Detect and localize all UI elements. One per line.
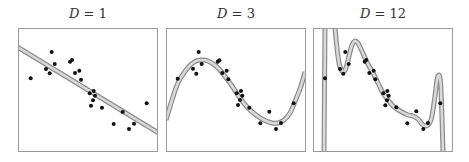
- data-point: [292, 101, 296, 105]
- plot-area: [313, 28, 454, 153]
- title-variable: D: [217, 6, 227, 21]
- fit-curve: [18, 47, 158, 132]
- data-point: [279, 121, 283, 125]
- panel-title: D = 3: [161, 6, 311, 21]
- data-point: [73, 71, 77, 75]
- data-point: [112, 122, 116, 126]
- data-point: [176, 77, 180, 81]
- data-point: [77, 69, 81, 73]
- data-point: [197, 50, 201, 54]
- data-point: [88, 91, 92, 95]
- data-point: [235, 91, 239, 95]
- data-point: [347, 62, 351, 66]
- title-variable: D: [69, 6, 79, 21]
- data-point: [191, 67, 195, 71]
- data-point: [383, 103, 387, 107]
- title-value: 1: [99, 6, 107, 21]
- panel-title: D = 12: [308, 6, 458, 21]
- data-point: [44, 67, 48, 71]
- data-point: [93, 94, 97, 98]
- data-point: [385, 89, 389, 93]
- data-point: [217, 58, 221, 62]
- fit-curve: [324, 28, 443, 152]
- data-point: [48, 71, 52, 75]
- data-point: [225, 69, 229, 73]
- data-point: [373, 77, 377, 81]
- data-point: [372, 69, 376, 73]
- data-point: [387, 94, 391, 98]
- title-equals: =: [370, 6, 389, 21]
- data-point: [258, 121, 262, 125]
- data-point: [29, 76, 33, 80]
- data-point: [323, 76, 327, 80]
- data-point: [100, 106, 104, 110]
- data-point: [274, 127, 278, 131]
- data-point: [438, 101, 442, 105]
- data-point: [341, 72, 345, 76]
- panel-d1: D = 1: [13, 0, 163, 162]
- data-point: [405, 121, 409, 125]
- title-value: 12: [390, 6, 407, 21]
- data-point: [338, 67, 342, 71]
- data-point: [381, 91, 385, 95]
- data-point: [50, 50, 54, 54]
- data-point: [240, 94, 244, 98]
- data-point: [92, 89, 96, 93]
- data-point: [394, 105, 398, 109]
- data-point: [70, 58, 74, 62]
- title-value: 3: [247, 6, 255, 21]
- data-point: [426, 121, 430, 125]
- data-point: [239, 89, 243, 93]
- data-point: [53, 62, 57, 66]
- data-point: [367, 71, 371, 75]
- title-variable: D: [360, 6, 370, 21]
- data-point: [414, 109, 418, 113]
- data-point: [421, 127, 425, 131]
- data-point: [200, 62, 204, 66]
- panel-title: D = 1: [13, 6, 163, 21]
- data-point: [132, 122, 136, 126]
- plot-area: [18, 28, 159, 153]
- plot-area: [166, 28, 307, 153]
- title-equals: =: [227, 6, 246, 21]
- data-point: [364, 58, 368, 62]
- data-point: [236, 103, 240, 107]
- data-point: [127, 127, 131, 131]
- data-point: [226, 77, 230, 81]
- panel-d3: D = 3: [161, 0, 311, 162]
- data-point: [145, 101, 149, 105]
- data-point: [385, 98, 389, 102]
- data-point: [194, 72, 198, 76]
- data-point: [267, 110, 271, 114]
- panel-d12: D = 12: [308, 0, 458, 162]
- data-point: [220, 71, 224, 75]
- data-point: [238, 98, 242, 102]
- fit-curve: [166, 60, 305, 123]
- data-point: [343, 50, 347, 54]
- data-point: [79, 78, 83, 82]
- data-point: [91, 98, 95, 102]
- data-point: [247, 106, 251, 110]
- title-equals: =: [79, 6, 98, 21]
- data-point: [121, 110, 125, 114]
- data-point: [89, 104, 93, 108]
